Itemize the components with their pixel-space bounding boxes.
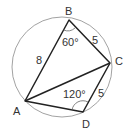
vertex-label-b: B	[65, 5, 72, 17]
side-label-ab: 8	[36, 54, 42, 66]
vertex-label-c: C	[115, 55, 123, 67]
vertex-label-d: D	[82, 118, 90, 130]
angle-label-d: 120°	[63, 88, 86, 100]
side-label-bc: 5	[92, 34, 98, 46]
angle-label-b: 60°	[62, 36, 79, 48]
side-label-cd: 5	[98, 87, 104, 99]
vertex-label-a: A	[13, 105, 21, 117]
cyclic-quadrilateral-diagram: A B C D 8 5 5 60° 120°	[0, 0, 132, 135]
